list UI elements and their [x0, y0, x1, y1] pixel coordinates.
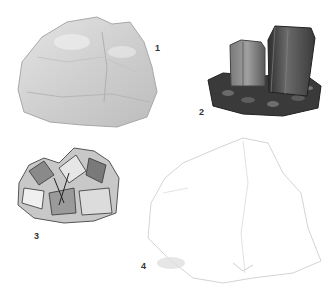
specimen-1-rock — [12, 12, 162, 130]
specimen-label-3: 3 — [34, 231, 39, 241]
specimen-4-rock — [143, 133, 323, 291]
specimen-2-crystals — [203, 18, 325, 118]
specimen-3-cluster — [14, 143, 124, 228]
specimen-label-4: 4 — [141, 261, 146, 271]
specimen-label-2: 2 — [199, 107, 204, 117]
specimen-label-1: 1 — [155, 43, 160, 53]
